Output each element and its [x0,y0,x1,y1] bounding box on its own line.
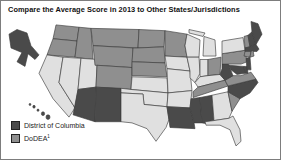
legend-item-dodea: DoDEA1 [11,133,85,144]
state-wa[interactable] [53,25,79,41]
figure-frame: Compare the Average Score in 2013 to Oth… [0,0,281,160]
state-hi[interactable] [41,112,44,116]
chart-title: Compare the Average Score in 2013 to Oth… [8,5,278,14]
state-mo[interactable] [167,69,192,93]
legend-item-district-of-columbia: District of Columbia [11,120,85,131]
state-wy[interactable] [93,46,133,68]
state-or[interactable] [47,39,77,57]
state-ar[interactable] [167,91,192,108]
state-hi[interactable] [33,105,35,108]
state-hi[interactable] [46,115,50,120]
state-nm[interactable] [95,87,121,122]
state-co[interactable] [96,65,132,89]
state-mn[interactable] [165,31,187,58]
state-al[interactable] [200,95,214,124]
state-oh[interactable] [208,57,221,75]
state-hi[interactable] [37,109,39,111]
state-hi[interactable] [29,103,31,105]
state-ak[interactable] [9,30,39,67]
state-mi[interactable] [203,36,216,56]
state-wi[interactable] [185,34,200,57]
footnote-marker: 1 [47,134,50,139]
state-sd[interactable] [132,47,165,63]
map-legend: District of Columbia DoDEA1 [11,120,85,146]
state-in[interactable] [200,59,208,76]
state-mi[interactable] [189,30,205,37]
state-ne[interactable] [132,62,167,77]
dodea-color-swatch [11,134,20,143]
legend-label: District of Columbia [24,121,85,129]
legend-label: DoDEA1 [24,134,50,142]
state-nd[interactable] [138,30,165,48]
state-mt[interactable] [91,28,139,48]
dc-color-swatch [11,121,20,130]
state-nj[interactable] [246,57,251,70]
